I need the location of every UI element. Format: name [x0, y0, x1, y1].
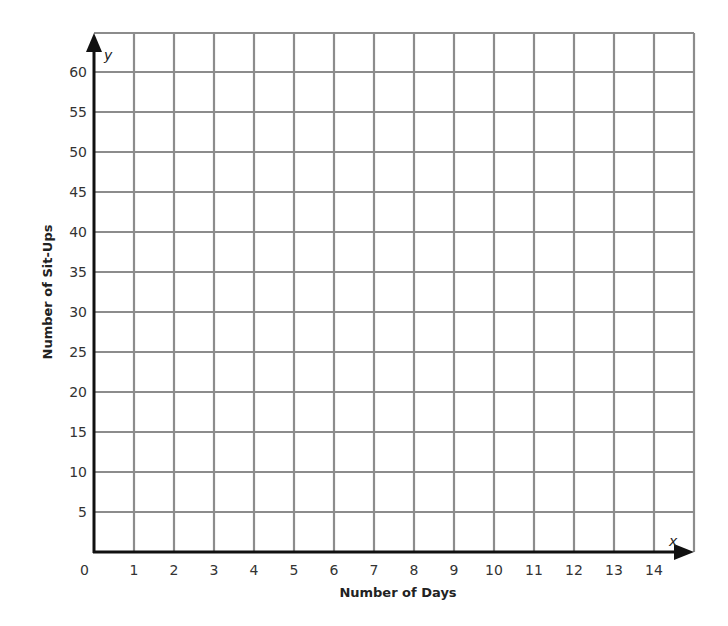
- y-tick-label: 40: [69, 224, 87, 240]
- x-tick-label: 1: [130, 562, 139, 578]
- y-tick-label: 60: [69, 64, 87, 80]
- x-tick-label: 3: [210, 562, 219, 578]
- y-tick-label: 10: [69, 464, 87, 480]
- x-tick-label: 6: [330, 562, 339, 578]
- y-tick-label: 50: [69, 144, 87, 160]
- y-variable-label: y: [103, 47, 113, 63]
- x-tick-label: 2: [170, 562, 179, 578]
- x-axis-label: Number of Days: [339, 585, 456, 600]
- x-variable-label: x: [668, 533, 678, 549]
- grid-lines: [94, 33, 694, 552]
- y-tick-labels: 51015202530354045505560: [69, 64, 87, 520]
- x-tick-label: 5: [290, 562, 299, 578]
- y-tick-label: 15: [69, 424, 87, 440]
- x-tick-label: 4: [250, 562, 259, 578]
- y-tick-label: 55: [69, 104, 87, 120]
- y-axis-label: Number of Sit-Ups: [40, 224, 55, 359]
- y-tick-label: 20: [69, 384, 87, 400]
- x-tick-label: 10: [485, 562, 503, 578]
- y-tick-label: 45: [69, 184, 87, 200]
- y-tick-label: 35: [69, 264, 87, 280]
- x-tick-label: 7: [370, 562, 379, 578]
- x-tick-label: 9: [450, 562, 459, 578]
- x-tick-label: 12: [565, 562, 583, 578]
- x-tick-label: 14: [645, 562, 663, 578]
- x-tick-label: 11: [525, 562, 543, 578]
- y-axis-arrow-icon: [86, 33, 102, 52]
- y-tick-label: 5: [78, 504, 87, 520]
- x-tick-labels: 1234567891011121314: [130, 562, 663, 578]
- x-tick-label: 13: [605, 562, 623, 578]
- x-tick-label: 8: [410, 562, 419, 578]
- coordinate-grid-chart: 1234567891011121314 51015202530354045505…: [0, 0, 728, 626]
- origin-label: 0: [80, 562, 89, 578]
- y-tick-label: 25: [69, 344, 87, 360]
- y-tick-label: 30: [69, 304, 87, 320]
